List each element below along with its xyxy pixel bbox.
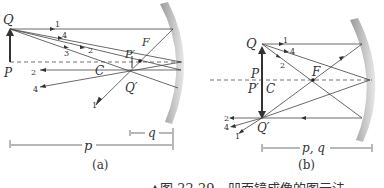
label-C-a: C xyxy=(95,64,104,78)
figure-caption: ▲图 22-29 凹面镜成像的图示法 xyxy=(150,181,345,188)
label-F-a: F xyxy=(141,36,150,49)
label-P-prime-b: P′ xyxy=(247,82,259,96)
label-P-b: P xyxy=(250,67,260,81)
concave-mirror-a xyxy=(160,2,184,124)
ray-label-4-out: 4 xyxy=(33,85,38,94)
ray-label-1: 1 xyxy=(55,20,60,29)
ray-label-1-out-b: 1 xyxy=(235,132,240,141)
label-p: p xyxy=(84,138,93,153)
caption-b: (b) xyxy=(298,158,315,172)
ray-label-2: 2 xyxy=(88,46,93,55)
panel-a: Q P P′ F C Q′ 1 4 3 2 2 4 1 q p (a) xyxy=(3,2,184,172)
ray-label-4: 4 xyxy=(62,31,67,40)
label-pq: p, q xyxy=(302,141,325,155)
ray-label-4-b: 4 xyxy=(290,47,295,56)
label-Q-a: Q xyxy=(3,12,14,27)
label-Q-b: Q xyxy=(246,36,257,51)
mirror-ray-diagram: Q P P′ F C Q′ 1 4 3 2 2 4 1 q p (a) xyxy=(0,0,384,188)
panel-b: Q P P′ C F Q′ 1 4 2 2 4 1 p, q (b) xyxy=(210,18,375,172)
ray-label-1-b: 1 xyxy=(283,36,288,45)
label-F-b: F xyxy=(311,65,321,79)
ray-label-3: 3 xyxy=(64,49,69,58)
label-Q-prime-a: Q′ xyxy=(125,81,138,95)
label-q: q xyxy=(148,126,156,140)
ray-label-2-b: 2 xyxy=(280,61,285,70)
focal-point-a xyxy=(138,59,142,63)
label-P-prime-a: P′ xyxy=(124,48,135,61)
ray-label-2-out-b: 2 xyxy=(224,114,229,123)
label-P-a: P xyxy=(3,66,13,80)
label-Q-prime-b: Q′ xyxy=(257,121,270,135)
caption-a: (a) xyxy=(92,158,109,172)
ray-label-1-out: 1 xyxy=(92,101,97,110)
ray-label-4-out-b: 4 xyxy=(224,123,229,132)
ray-label-2-out: 2 xyxy=(31,68,36,77)
label-C-b: C xyxy=(266,82,275,96)
